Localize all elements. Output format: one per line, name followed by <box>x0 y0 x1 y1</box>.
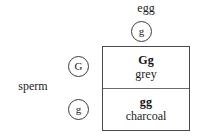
sperm-gamete-circle-dominant: G <box>68 56 89 77</box>
sperm-gamete-circle-recessive: g <box>68 99 89 120</box>
punnett-cell-offspring-1: Gg grey <box>103 47 189 89</box>
sperm-axis-label: sperm <box>2 79 64 93</box>
sperm-gamete-allele-recessive: g <box>69 100 88 119</box>
punnett-square-grid: Gg grey gg charcoal <box>102 46 190 131</box>
offspring-phenotype-2: charcoal <box>126 109 167 124</box>
offspring-phenotype-1: grey <box>135 67 156 82</box>
egg-axis-label: egg <box>102 1 190 15</box>
sperm-gamete-allele-dominant: G <box>69 57 88 76</box>
egg-gamete-allele: g <box>132 22 151 41</box>
punnett-cell-offspring-2: gg charcoal <box>103 89 189 131</box>
punnett-square-figure: egg g sperm G g Gg grey gg charcoal <box>0 0 197 136</box>
offspring-genotype-2: gg <box>140 95 152 109</box>
offspring-genotype-1: Gg <box>138 53 154 67</box>
egg-gamete-circle: g <box>131 21 152 42</box>
